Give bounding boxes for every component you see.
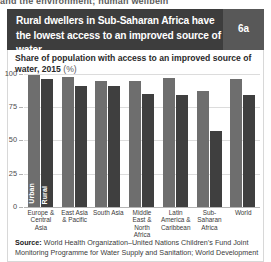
y-tick-50: 50 [0, 136, 17, 143]
tickmark-0 [19, 207, 23, 208]
x-axis-labels: Europe & Central Asia East Asia & Pacifi… [24, 209, 260, 239]
page-title: Rural dwellers in Sub-Saharan Africa hav… [16, 14, 223, 58]
figure-badge: 6a [223, 9, 264, 50]
bar-label-urban: Urban [28, 183, 40, 204]
bar-group-south-asia [91, 74, 125, 207]
y-tick-75: 75 [0, 103, 17, 110]
bar-urban[interactable] [230, 79, 242, 207]
bar-rural[interactable] [243, 95, 255, 207]
bar-group-sub-saharan-africa [193, 74, 227, 207]
bar-rural[interactable] [142, 94, 154, 207]
x-label-latin-america-caribbean: Latin America & Caribbean [159, 209, 193, 239]
gridline-0 [24, 207, 260, 208]
source-note: Source: World Health Organization–United… [15, 238, 261, 262]
bar-groups: Urban Rural [24, 74, 260, 207]
chart-subtitle-main: Share of population with access to an im… [15, 53, 251, 74]
tickmark-25 [19, 174, 23, 175]
source-text: World Health Organization–United Nations… [15, 238, 258, 257]
bar-group-europe-central-asia: Urban Rural [24, 74, 58, 207]
source-label: Source: [15, 238, 42, 247]
bar-group-latin-america-caribbean [159, 74, 193, 207]
chart-subtitle-unit: (%) [63, 64, 76, 74]
bar-urban[interactable]: Urban [28, 75, 40, 207]
y-tick-100: 100 [0, 70, 17, 77]
bar-urban[interactable] [163, 78, 175, 207]
x-label-world: World [226, 209, 260, 239]
tickmark-75 [19, 107, 23, 108]
bar-urban[interactable] [129, 81, 141, 207]
bar-urban[interactable] [95, 81, 107, 207]
bar-rural[interactable] [176, 95, 188, 207]
y-tick-0: 0 [0, 203, 17, 210]
x-label-middle-east-north-africa: Middle East & North Africa [125, 209, 159, 239]
figure-panel: and the environment; human wellbein Rura… [0, 0, 271, 262]
bar-urban[interactable] [197, 91, 209, 207]
bar-label-rural: Rural [41, 186, 53, 204]
chart-subtitle: Share of population with access to an im… [15, 53, 255, 74]
y-axis: 100 75 50 25 0 [0, 74, 24, 207]
clipped-header-text: and the environment; human wellbein [0, 0, 271, 8]
bar-group-world [226, 74, 260, 207]
tickmark-50 [19, 140, 23, 141]
bar-group-east-asia-pacific [58, 74, 92, 207]
tickmark-100 [19, 74, 23, 75]
x-label-south-asia: South Asia [91, 209, 125, 239]
bar-rural[interactable]: Rural [41, 79, 53, 207]
bar-urban[interactable] [62, 77, 74, 207]
x-label-europe-central-asia: Europe & Central Asia [24, 209, 58, 239]
bar-rural[interactable] [75, 86, 87, 207]
x-label-sub-saharan-africa: Sub-Saharan Africa [193, 209, 227, 239]
figure-badge-label: 6a [223, 23, 264, 34]
bar-group-middle-east-north-africa [125, 74, 159, 207]
y-tick-25: 25 [0, 170, 17, 177]
bar-rural[interactable] [210, 131, 222, 207]
bar-rural[interactable] [108, 86, 120, 207]
title-bar: Rural dwellers in Sub-Saharan Africa hav… [7, 9, 264, 50]
x-label-east-asia-pacific: East Asia & Pacific [58, 209, 92, 239]
